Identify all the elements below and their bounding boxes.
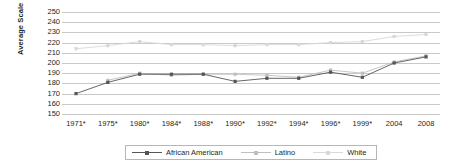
- data-point-marker: [138, 73, 141, 76]
- data-series-layer: [0, 0, 454, 166]
- legend-item-white: White: [311, 146, 368, 159]
- data-point-marker: [233, 73, 236, 76]
- data-point-marker: [424, 55, 427, 58]
- data-point-marker: [265, 74, 268, 77]
- data-point-marker: [106, 81, 109, 84]
- data-point-marker: [233, 44, 236, 47]
- data-point-marker: [297, 43, 300, 46]
- legend-label-african-american: African American: [166, 148, 223, 157]
- data-point-marker: [393, 61, 396, 64]
- data-point-marker: [74, 47, 77, 50]
- data-point-marker: [297, 77, 300, 80]
- legend-marker: [254, 151, 258, 155]
- line-chart: Average Scale Score 25024023022021020019…: [0, 0, 454, 166]
- chart-legend: African American Latino White: [125, 145, 377, 160]
- data-point-marker: [361, 72, 364, 75]
- legend-marker: [145, 151, 149, 155]
- data-point-marker: [170, 43, 173, 46]
- data-point-marker: [233, 80, 236, 83]
- data-point-marker: [361, 76, 364, 79]
- legend-label-latino: Latino: [275, 148, 295, 157]
- legend-marker: [326, 151, 330, 155]
- data-point-marker: [202, 73, 205, 76]
- data-point-marker: [138, 40, 141, 43]
- data-point-marker: [424, 33, 427, 36]
- series-line: [76, 34, 426, 48]
- data-point-marker: [170, 73, 173, 76]
- legend-swatch-white: [313, 148, 343, 157]
- data-point-marker: [106, 44, 109, 47]
- data-point-marker: [74, 92, 77, 95]
- data-point-marker: [265, 77, 268, 80]
- data-point-marker: [265, 43, 268, 46]
- legend-item-latino: Latino: [239, 146, 297, 159]
- legend-swatch-african-american: [132, 148, 162, 157]
- legend-item-african-american: African American: [130, 146, 225, 159]
- data-point-marker: [329, 41, 332, 44]
- legend-swatch-latino: [241, 148, 271, 157]
- data-point-marker: [202, 43, 205, 46]
- data-point-marker: [361, 40, 364, 43]
- data-point-marker: [329, 71, 332, 74]
- data-point-marker: [393, 35, 396, 38]
- legend-label-white: White: [347, 148, 366, 157]
